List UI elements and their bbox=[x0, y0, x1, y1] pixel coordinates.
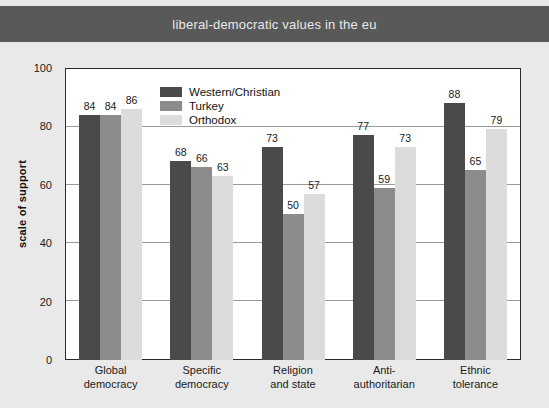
x-tick-label-line: Ethnic bbox=[430, 364, 521, 378]
legend-label: Western/Christian bbox=[189, 86, 280, 98]
x-tick-label-line: and state bbox=[247, 378, 338, 392]
y-tick-label: 40 bbox=[40, 237, 52, 249]
x-tick-label: Ethnictolerance bbox=[430, 364, 521, 391]
x-axis-labels: GlobaldemocracySpecificdemocracyReligion… bbox=[65, 364, 521, 408]
x-tick-label: Anti-authoritarian bbox=[339, 364, 430, 391]
page-title: liberal-democratic values in the eu bbox=[172, 17, 376, 32]
legend-swatch-icon bbox=[160, 87, 182, 97]
x-tick-label-line: authoritarian bbox=[339, 378, 430, 392]
legend-item-turkey[interactable]: Turkey bbox=[160, 99, 280, 112]
legend-label: Orthodox bbox=[189, 114, 236, 126]
gridlines bbox=[66, 69, 520, 359]
gridline bbox=[66, 126, 520, 127]
x-tick-label-line: Anti- bbox=[339, 364, 430, 378]
legend-swatch-icon bbox=[160, 115, 182, 125]
y-tick-label: 80 bbox=[40, 120, 52, 132]
x-tick-label-line: democracy bbox=[65, 378, 156, 392]
x-tick-label-line: Global bbox=[65, 364, 156, 378]
x-tick-label: Specificdemocracy bbox=[156, 364, 247, 391]
gridline bbox=[66, 300, 520, 301]
gridline bbox=[66, 184, 520, 185]
legend-item-western-christian[interactable]: Western/Christian bbox=[160, 85, 280, 98]
y-tick-label: 100 bbox=[34, 62, 52, 74]
x-tick-label: Religionand state bbox=[247, 364, 338, 391]
x-tick-label-line: democracy bbox=[156, 378, 247, 392]
legend-item-orthodox[interactable]: Orthodox bbox=[160, 113, 280, 126]
y-tick-label: 20 bbox=[40, 296, 52, 308]
legend-swatch-icon bbox=[160, 101, 182, 111]
x-tick-label: Globaldemocracy bbox=[65, 364, 156, 391]
y-axis-ticks: 020406080100 bbox=[0, 68, 60, 360]
y-tick-label: 0 bbox=[46, 354, 52, 366]
gridline bbox=[66, 242, 520, 243]
plot-area bbox=[65, 68, 521, 360]
x-tick-label-line: Specific bbox=[156, 364, 247, 378]
chart-figure: scale of support 020406080100 8484866866… bbox=[0, 48, 549, 408]
legend: Western/ChristianTurkeyOrthodox bbox=[160, 85, 280, 126]
chart-page: liberal-democratic values in the eu scal… bbox=[0, 0, 549, 408]
header-band: liberal-democratic values in the eu bbox=[0, 6, 549, 42]
x-tick-label-line: Religion bbox=[247, 364, 338, 378]
legend-label: Turkey bbox=[189, 100, 224, 112]
x-tick-label-line: tolerance bbox=[430, 378, 521, 392]
y-tick-label: 60 bbox=[40, 179, 52, 191]
